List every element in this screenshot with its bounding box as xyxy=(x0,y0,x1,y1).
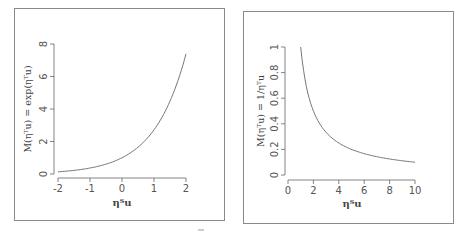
y-tick-label: 0.8 xyxy=(269,65,280,81)
x-tick-label: 4 xyxy=(336,185,342,196)
x-tick-label: 8 xyxy=(386,185,392,196)
y-tick-label: 0.4 xyxy=(269,116,280,132)
x-tick-label: 0 xyxy=(285,185,291,196)
chart-reciprocal: 00.20.40.60.81 0246810 ηᵀu M(ηᵀu) = 1/ηᵀ… xyxy=(0,0,464,236)
y-axis-label: M(ηᵀu) = 1/ηᵀu xyxy=(255,75,266,147)
x-tick-label: 2 xyxy=(310,185,316,196)
x-tick-label: 6 xyxy=(361,185,367,196)
y-tick-label: 0 xyxy=(269,172,280,178)
y-tick-label: 0.6 xyxy=(269,90,280,106)
x-axis-label: ηᵀu xyxy=(342,198,361,209)
y-ticks: 00.20.40.60.81 xyxy=(269,44,285,178)
x-ticks: 0246810 xyxy=(285,180,422,196)
reciprocal-curve xyxy=(301,47,415,162)
x-tick-label: 10 xyxy=(409,185,422,196)
y-tick-label: 1 xyxy=(269,44,280,50)
scan-artifact xyxy=(198,229,204,231)
y-tick-label: 0.2 xyxy=(269,141,280,157)
